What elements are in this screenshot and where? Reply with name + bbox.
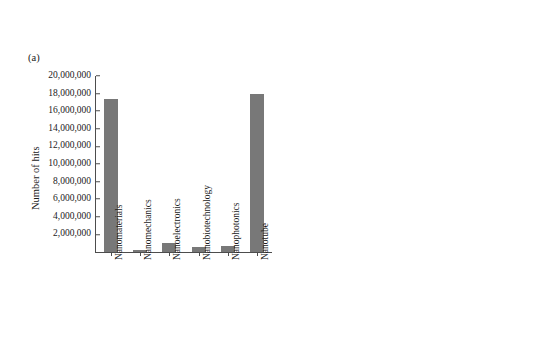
x-tick-mark [140,252,141,256]
y-tick-label: 8,000,000 [53,177,96,187]
x-tick-mark [228,252,229,256]
panel-a-y-axis-title: Number of hits [30,146,41,210]
y-tick-label: 2,000,000 [53,230,96,240]
y-tick-label: 4,000,000 [53,212,96,222]
y-tick-label: 18,000,000 [48,89,96,99]
y-tick-label: 14,000,000 [48,124,96,134]
y-tick-label: 20,000,000 [48,71,96,81]
x-tick-label: Nanobiotechnology [203,185,213,260]
x-tick-mark [257,252,258,256]
x-tick-label: Nanoelectronics [173,198,183,260]
x-tick-mark [111,252,112,256]
figure-two-bar-charts: (a) Number of hits 2,000,0004,000,0006,0… [0,0,545,364]
panel-a: (a) Number of hits 2,000,0004,000,0006,0… [0,0,285,364]
panel-a-plot-area: 2,000,0004,000,0006,000,0008,000,00010,0… [95,76,272,253]
x-tick-label: Nanotube [261,223,271,260]
panel-b: (b) Searches (relative) 00.10.20.30.40.5… [285,0,545,364]
y-tick-label: 16,000,000 [48,106,96,116]
x-tick-mark [169,252,170,256]
y-tick-label: 6,000,000 [53,194,96,204]
x-tick-mark [199,252,200,256]
panel-a-label: (a) [28,52,40,63]
x-tick-label: Nanomechanics [144,199,154,260]
y-tick-label: 10,000,000 [48,159,96,169]
x-tick-label: Nanomaterials [115,205,125,260]
y-tick-label: 12,000,000 [48,142,96,152]
x-tick-label: Nanophotonics [232,202,242,260]
